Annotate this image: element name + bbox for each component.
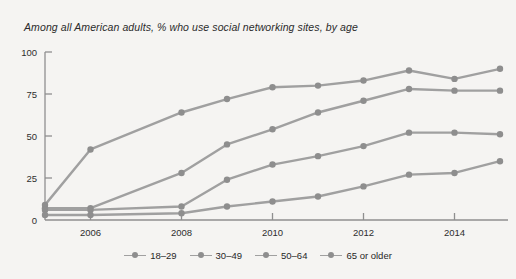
y-tick-label: 25 bbox=[26, 173, 37, 184]
legend-marker-icon bbox=[255, 251, 277, 260]
line-chart-plot: 025507510020062008201020122014 bbox=[0, 0, 516, 279]
data-point bbox=[224, 141, 230, 147]
data-point bbox=[360, 143, 366, 149]
y-tick-label: 50 bbox=[26, 131, 37, 142]
legend-item-65-or-older[interactable]: 65 or older bbox=[320, 250, 391, 261]
data-point bbox=[224, 96, 230, 102]
series-line-65 or older bbox=[45, 161, 500, 215]
data-point bbox=[497, 131, 503, 137]
data-point bbox=[497, 158, 503, 164]
data-point bbox=[497, 66, 503, 72]
legend-marker-icon bbox=[190, 251, 212, 260]
chart-legend: 18–29 30–49 50–64 65 or older bbox=[0, 250, 516, 261]
data-point bbox=[406, 67, 412, 73]
data-point bbox=[178, 170, 184, 176]
data-point bbox=[497, 87, 503, 93]
data-point bbox=[87, 212, 93, 218]
legend-marker-icon bbox=[320, 251, 342, 260]
data-point bbox=[360, 77, 366, 83]
y-tick-label: 75 bbox=[26, 89, 37, 100]
series-line-30–49 bbox=[45, 89, 500, 208]
legend-item-18-29[interactable]: 18–29 bbox=[124, 250, 176, 261]
data-point bbox=[178, 109, 184, 115]
data-point bbox=[451, 129, 457, 135]
data-point bbox=[269, 161, 275, 167]
data-point bbox=[451, 76, 457, 82]
data-point bbox=[269, 84, 275, 90]
y-tick-label: 100 bbox=[21, 47, 37, 58]
data-point bbox=[360, 183, 366, 189]
chart-series bbox=[42, 66, 503, 219]
x-tick-label: 2006 bbox=[80, 227, 101, 238]
data-point bbox=[451, 87, 457, 93]
data-point bbox=[315, 109, 321, 115]
legend-item-50-64[interactable]: 50–64 bbox=[255, 250, 307, 261]
data-point bbox=[406, 86, 412, 92]
legend-label: 50–64 bbox=[281, 250, 307, 261]
data-point bbox=[269, 126, 275, 132]
chart-figure: Among all American adults, % who use soc… bbox=[0, 0, 516, 279]
data-point bbox=[269, 198, 275, 204]
data-point bbox=[315, 153, 321, 159]
x-tick-label: 2014 bbox=[444, 227, 465, 238]
data-point bbox=[224, 176, 230, 182]
data-point bbox=[360, 98, 366, 104]
data-point bbox=[178, 203, 184, 209]
y-tick-label: 0 bbox=[32, 215, 37, 226]
x-tick-label: 2012 bbox=[353, 227, 374, 238]
x-tick-label: 2008 bbox=[171, 227, 192, 238]
data-point bbox=[451, 170, 457, 176]
legend-label: 18–29 bbox=[150, 250, 176, 261]
legend-marker-icon bbox=[124, 251, 146, 260]
data-point bbox=[315, 82, 321, 88]
data-point bbox=[224, 203, 230, 209]
legend-item-30-49[interactable]: 30–49 bbox=[190, 250, 242, 261]
data-point bbox=[87, 146, 93, 152]
data-point bbox=[315, 193, 321, 199]
data-point bbox=[406, 171, 412, 177]
legend-label: 65 or older bbox=[346, 250, 391, 261]
legend-label: 30–49 bbox=[216, 250, 242, 261]
data-point bbox=[406, 129, 412, 135]
x-tick-label: 2010 bbox=[262, 227, 283, 238]
data-point bbox=[178, 210, 184, 216]
data-point bbox=[42, 212, 48, 218]
